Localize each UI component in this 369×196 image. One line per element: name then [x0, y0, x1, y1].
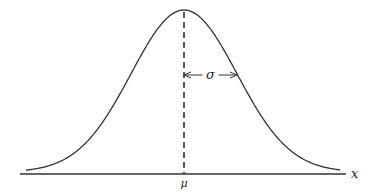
- normal-distribution-diagram: σ μ x: [0, 0, 369, 196]
- bell-curve: [26, 10, 340, 170]
- sigma-label: σ: [206, 67, 216, 82]
- x-axis-label: x: [351, 166, 359, 181]
- mean-label: μ: [180, 177, 187, 190]
